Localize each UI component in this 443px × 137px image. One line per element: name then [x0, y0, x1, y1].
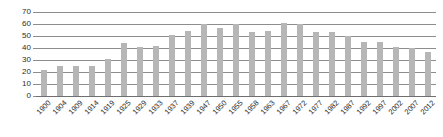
bar: [345, 36, 351, 96]
bar: [361, 42, 367, 96]
x-tick-label-text: 1950: [211, 99, 228, 116]
x-axis: 1900190419091914191919251929193319371939…: [36, 97, 436, 137]
x-tick-label-text: 1947: [195, 99, 212, 116]
x-tick-label: 1904: [51, 99, 68, 116]
x-tick-label-text: 1914: [83, 99, 100, 116]
bar: [329, 32, 335, 96]
x-tick-label: 1909: [67, 99, 84, 116]
y-tick-label: 40: [22, 44, 31, 52]
x-tick-label-text: 1997: [371, 99, 388, 116]
bar: [377, 42, 383, 96]
bar: [185, 31, 191, 96]
bar: [297, 24, 303, 96]
x-tick-label: 1997: [371, 99, 388, 116]
x-tick-label: 1977: [307, 99, 324, 116]
y-tick-label: 0: [27, 92, 31, 100]
x-tick-label: 2012: [419, 99, 436, 116]
x-tick-label-text: 1987: [339, 99, 356, 116]
y-tick-label: 70: [22, 8, 31, 16]
x-tick-label: 1939: [179, 99, 196, 116]
x-tick-label-text: 2007: [403, 99, 420, 116]
x-tick-label-text: 2002: [387, 99, 404, 116]
y-tick-label: 50: [22, 32, 31, 40]
bar-chart: 010203040506070 190019041909191419191925…: [0, 0, 443, 137]
x-tick-label: 1929: [131, 99, 148, 116]
x-tick-label-text: 1900: [35, 99, 52, 116]
bar: [233, 24, 239, 96]
bar: [121, 43, 127, 96]
bar: [425, 52, 431, 96]
y-tick-label: 60: [22, 20, 31, 28]
bar: [281, 23, 287, 96]
bars-layer: [36, 12, 436, 96]
x-tick-label: 1972: [291, 99, 308, 116]
bar: [217, 28, 223, 96]
x-tick-label: 2007: [403, 99, 420, 116]
bar: [41, 70, 47, 96]
x-tick-label-text: 1958: [243, 99, 260, 116]
bar: [105, 59, 111, 96]
x-tick-label: 1992: [355, 99, 372, 116]
x-tick-label: 1958: [243, 99, 260, 116]
bar: [409, 48, 415, 96]
x-tick-label-text: 1982: [323, 99, 340, 116]
x-tick-label-text: 1925: [115, 99, 132, 116]
x-tick-label: 1955: [227, 99, 244, 116]
x-tick-label: 1947: [195, 99, 212, 116]
x-tick-label-text: 1904: [51, 99, 68, 116]
x-tick-label: 1937: [163, 99, 180, 116]
x-tick-label-text: 1992: [355, 99, 372, 116]
x-tick-label-text: 1967: [275, 99, 292, 116]
y-tick-label: 30: [22, 56, 31, 64]
x-tick-label-text: 1929: [131, 99, 148, 116]
x-tick-label: 1919: [99, 99, 116, 116]
bar: [73, 66, 79, 96]
y-tick-label: 10: [22, 80, 31, 88]
x-tick-label-text: 1933: [147, 99, 164, 116]
x-tick-label: 1933: [147, 99, 164, 116]
bar: [265, 31, 271, 96]
x-tick-label: 1963: [259, 99, 276, 116]
x-tick-label: 1900: [35, 99, 52, 116]
x-tick-label-text: 2012: [419, 99, 436, 116]
x-tick-label-text: 1909: [67, 99, 84, 116]
x-tick-label-text: 1972: [291, 99, 308, 116]
bar: [89, 66, 95, 96]
x-tick-label: 2002: [387, 99, 404, 116]
x-tick-label: 1925: [115, 99, 132, 116]
bar: [249, 32, 255, 96]
bar: [137, 47, 143, 96]
bar: [169, 35, 175, 96]
x-tick-label: 1950: [211, 99, 228, 116]
y-tick-label: 20: [22, 68, 31, 76]
x-tick-label: 1914: [83, 99, 100, 116]
bar: [313, 32, 319, 96]
x-tick-label-text: 1937: [163, 99, 180, 116]
y-axis: 010203040506070: [0, 0, 34, 96]
x-tick-label: 1982: [323, 99, 340, 116]
x-tick-label-text: 1919: [99, 99, 116, 116]
bar: [201, 24, 207, 96]
x-tick-label-text: 1939: [179, 99, 196, 116]
x-tick-label-text: 1955: [227, 99, 244, 116]
bar: [393, 47, 399, 96]
bar: [57, 66, 63, 96]
x-tick-label: 1967: [275, 99, 292, 116]
x-tick-label: 1987: [339, 99, 356, 116]
x-tick-label-text: 1963: [259, 99, 276, 116]
bar: [153, 46, 159, 96]
x-tick-label-text: 1977: [307, 99, 324, 116]
